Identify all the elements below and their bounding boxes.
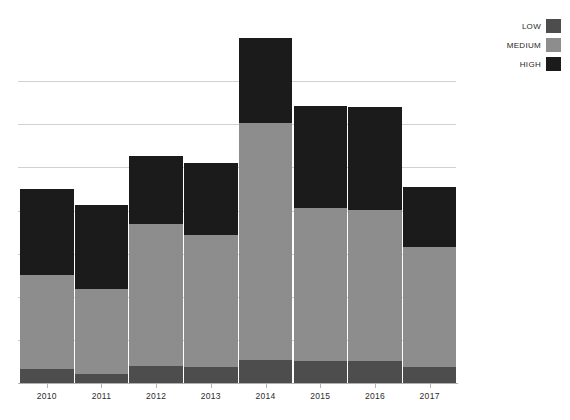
- gridline: [18, 81, 456, 82]
- bar-segment-low-2013[interactable]: [184, 367, 238, 383]
- legend-label-high: HIGH: [520, 60, 541, 69]
- bar-segment-medium-2010[interactable]: [20, 275, 74, 369]
- bar-segment-high-2012[interactable]: [129, 156, 183, 224]
- bar-segment-high-2011[interactable]: [75, 205, 129, 289]
- bar-2015[interactable]: [294, 106, 348, 383]
- bar-segment-medium-2016[interactable]: [348, 210, 402, 362]
- bar-segment-low-2015[interactable]: [294, 361, 348, 383]
- legend: LOWMEDIUMHIGH: [495, 18, 561, 75]
- legend-swatch-high: [546, 57, 561, 71]
- legend-item-low[interactable]: LOW: [495, 18, 561, 34]
- x-tick-2015: [320, 384, 321, 388]
- bar-segment-medium-2013[interactable]: [184, 235, 238, 367]
- x-tick-2017: [430, 384, 431, 388]
- legend-item-medium[interactable]: MEDIUM: [495, 37, 561, 53]
- bar-2014[interactable]: [239, 38, 293, 383]
- bar-2010[interactable]: [20, 189, 74, 383]
- bar-segment-high-2010[interactable]: [20, 189, 74, 275]
- bar-segment-medium-2011[interactable]: [75, 289, 129, 373]
- legend-item-high[interactable]: HIGH: [495, 56, 561, 72]
- x-axis-label-2015: 2015: [300, 391, 340, 401]
- bar-segment-low-2014[interactable]: [239, 360, 293, 383]
- x-tick-2010: [47, 384, 48, 388]
- bar-segment-low-2016[interactable]: [348, 361, 402, 383]
- bar-segment-low-2012[interactable]: [129, 366, 183, 383]
- legend-label-medium: MEDIUM: [507, 41, 541, 50]
- legend-swatch-medium: [546, 38, 561, 52]
- bar-segment-medium-2015[interactable]: [294, 208, 348, 362]
- x-axis-label-2013: 2013: [191, 391, 231, 401]
- x-tick-2012: [156, 384, 157, 388]
- x-axis-label-2017: 2017: [410, 391, 450, 401]
- bar-segment-high-2016[interactable]: [348, 107, 402, 210]
- x-axis-label-2016: 2016: [355, 391, 395, 401]
- x-axis-label-2014: 2014: [246, 391, 286, 401]
- bar-2016[interactable]: [348, 107, 402, 383]
- legend-swatch-low: [546, 19, 561, 33]
- bar-segment-high-2013[interactable]: [184, 163, 238, 235]
- bar-segment-high-2014[interactable]: [239, 38, 293, 122]
- x-axis-label-2012: 2012: [136, 391, 176, 401]
- bar-2011[interactable]: [75, 205, 129, 383]
- x-tick-2014: [266, 384, 267, 388]
- bar-segment-low-2017[interactable]: [403, 367, 457, 383]
- bar-segment-medium-2012[interactable]: [129, 224, 183, 366]
- bar-2013[interactable]: [184, 163, 238, 383]
- bar-segment-low-2010[interactable]: [20, 369, 74, 383]
- bar-segment-high-2015[interactable]: [294, 106, 348, 207]
- bar-segment-medium-2014[interactable]: [239, 123, 293, 360]
- bar-segment-medium-2017[interactable]: [403, 247, 457, 367]
- bar-2012[interactable]: [129, 156, 183, 383]
- bar-2017[interactable]: [403, 187, 457, 383]
- bar-segment-high-2017[interactable]: [403, 187, 457, 247]
- x-axis-label-2010: 2010: [27, 391, 67, 401]
- bar-segment-low-2011[interactable]: [75, 374, 129, 383]
- x-tick-2013: [211, 384, 212, 388]
- plot-area: 20102011201220132014201520162017: [0, 0, 470, 400]
- x-tick-2011: [101, 384, 102, 388]
- stacked-bar-chart: 20102011201220132014201520162017 LOWMEDI…: [0, 0, 570, 420]
- x-axis-line: [18, 383, 458, 384]
- legend-label-low: LOW: [522, 22, 541, 31]
- x-axis-label-2011: 2011: [81, 391, 121, 401]
- x-tick-2016: [375, 384, 376, 388]
